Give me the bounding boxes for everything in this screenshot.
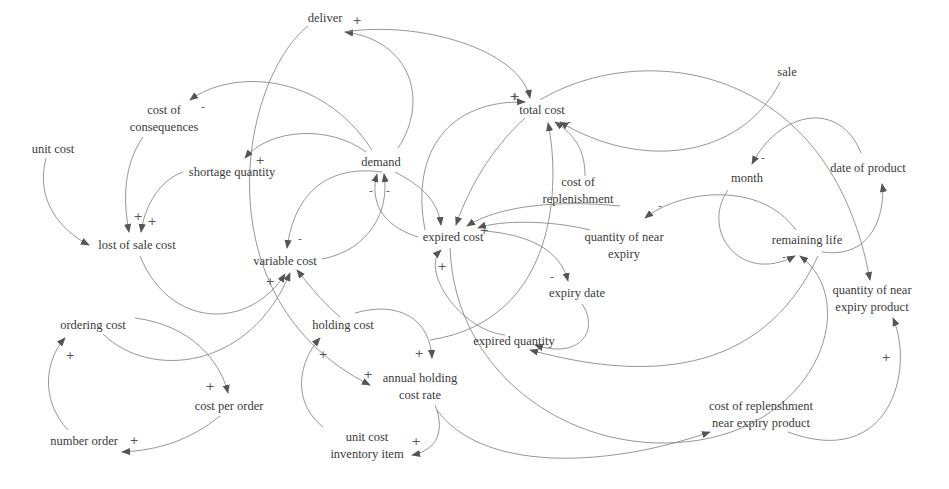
link-annual_holding_cost_rate-to-cost_of_replenshment_near_expiry_product (437, 410, 710, 458)
link-expired_cost-to-expiry_date (485, 231, 568, 281)
node-cost-of-consequences[interactable]: cost ofconsequences (130, 102, 199, 136)
polarity-negative: - (298, 232, 302, 245)
node-unit-cost-inventory-item[interactable]: unit costinventory item (330, 429, 403, 463)
polarity-positive: + (147, 215, 156, 228)
polarity-negative: - (782, 250, 786, 263)
node-deliver[interactable]: deliver (308, 10, 343, 27)
polarity-negative: - (386, 184, 390, 197)
link-demand-to-cost_of_consequences (190, 82, 372, 150)
node-date-of-product[interactable]: date of product (830, 160, 906, 177)
node-cost-of-replenshment-near-expiry-product[interactable]: cost of replenshmentnear expiry product (709, 398, 813, 432)
node-unit-cost[interactable]: unit cost (32, 141, 75, 158)
polarity-negative: - (369, 184, 373, 197)
node-ordering-cost[interactable]: ordering cost (60, 317, 126, 334)
link-expired_cost-to-demand (375, 174, 418, 237)
node-number-order[interactable]: number order (50, 433, 118, 450)
polarity-positive: + (205, 380, 214, 393)
polarity-positive: + (437, 260, 446, 273)
link-sale-to-total_cost (560, 82, 780, 151)
link-holding_cost-to-variable_cost (297, 270, 340, 317)
node-holding-cost[interactable]: holding cost (312, 317, 373, 334)
node-cost-per-order[interactable]: cost per order (195, 398, 264, 415)
link-remaining_life-to-expired_quantity (530, 256, 818, 367)
link-unit_cost-to-lost_of_sale_cost (43, 158, 89, 245)
link-quantity_of_near_expiry-to-expired_cost (478, 222, 590, 230)
polarity-positive: + (414, 347, 423, 360)
polarity-negative: - (658, 199, 662, 212)
node-expired-cost[interactable]: expired cost (423, 229, 484, 246)
link-demand-to-expired_cost (395, 172, 441, 225)
polarity-positive: + (411, 435, 420, 448)
polarity-negative: - (201, 100, 205, 113)
node-total-cost[interactable]: total cost (519, 102, 564, 119)
link-remaining_life-to-quantity_of_near_expiry (645, 195, 796, 230)
node-variable-cost[interactable]: variable cost (253, 253, 317, 270)
node-demand[interactable]: demand (361, 154, 401, 171)
polarity-positive: + (318, 348, 327, 361)
polarity-positive: + (65, 349, 74, 362)
polarity-positive: + (363, 368, 372, 381)
node-expiry-date[interactable]: expiry date (549, 285, 605, 302)
link-date_of_product-to-month (752, 118, 861, 164)
polarity-positive: + (881, 351, 890, 364)
polarity-positive: + (352, 14, 361, 27)
link-annual_holding_cost_rate-to-unit_cost_inventory_item (412, 405, 439, 455)
node-cost-of-replenishment[interactable]: cost ofreplenishment (543, 174, 614, 208)
polarity-positive: + (509, 90, 518, 103)
node-quantity-of-near-expiry-product[interactable]: quantity of nearexpiry product (832, 282, 911, 316)
polarity-negative: - (567, 115, 571, 128)
polarity-positive: + (133, 210, 142, 223)
node-quantity-of-near-expiry[interactable]: quantity of nearexpiry (584, 229, 663, 263)
polarity-negative: - (550, 270, 554, 283)
node-sale[interactable]: sale (777, 64, 796, 81)
link-ordering_cost-to-variable_cost (103, 273, 290, 360)
node-annual-holding-cost-rate[interactable]: annual holdingcost rate (383, 370, 458, 404)
node-month[interactable]: month (731, 170, 763, 187)
node-expired-quantity[interactable]: expired quantity (473, 333, 555, 350)
link-demand-to-deliver (345, 32, 413, 148)
polarity-positive: + (265, 275, 274, 288)
node-shortage-quantity[interactable]: shortage quantity (189, 164, 275, 181)
node-remaining-life[interactable]: remaining life (772, 232, 842, 249)
link-variable_cost-to-demand (322, 174, 385, 259)
polarity-positive: + (129, 434, 138, 447)
node-lost-of-sale-cost[interactable]: lost of sale cost (98, 237, 175, 254)
link-cost_of_replenishment-to-total_cost (555, 122, 585, 176)
polarity-negative: - (761, 151, 765, 164)
